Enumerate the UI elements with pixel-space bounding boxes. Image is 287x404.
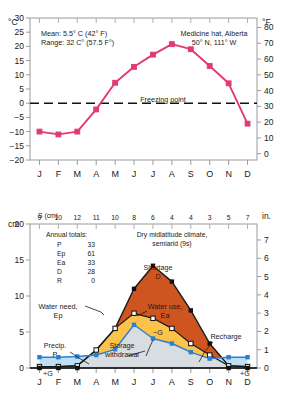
annual-total-value: 28 (87, 268, 95, 275)
temp-y2-tick-label: 10 (264, 133, 274, 143)
temp-y2-tick-label: 70 (264, 38, 274, 48)
storage-row-value: 10 (111, 214, 119, 221)
water-month-label: J (151, 377, 156, 387)
annual-total-value: 33 (87, 241, 95, 248)
water-month-label: F (56, 377, 62, 387)
recharge-marker (226, 366, 230, 370)
temperature-data-point (94, 107, 99, 112)
temperature-data-point (113, 80, 118, 85)
temp-y2-tick-label: 20 (264, 117, 274, 127)
water-need-point (132, 287, 136, 291)
temp-y-tick-label: 20 (15, 41, 25, 51)
water-balance-chart-svg: 0510152001234567JFMAMJJASOND cm in. S (c… (0, 196, 287, 404)
temp-y2-tick-label: 0 (264, 149, 269, 159)
water-use-point (113, 326, 117, 330)
precipitation-point (208, 356, 212, 360)
water-need-point (189, 308, 193, 312)
annual-totals-list: P33Ep61Ea33D28R0 (57, 241, 95, 284)
mean-temperature-label: Mean: 5.5° C (42° F) (41, 29, 107, 38)
precipitation-point (132, 323, 136, 327)
plus-g-label-december: +G (240, 369, 250, 378)
precipitation-point (37, 355, 41, 359)
celsius-unit-label: °C (8, 17, 18, 27)
fahrenheit-unit-label: °F (262, 17, 271, 27)
annual-total-key: D (57, 268, 62, 275)
water-use-point (132, 311, 136, 315)
water-month-label: O (206, 377, 213, 387)
temp-y-tick-label: 5 (19, 84, 24, 94)
water-y-tick-label: 15 (15, 255, 25, 265)
temperature-data-point (207, 64, 212, 69)
storage-row-value: 12 (74, 214, 82, 221)
temp-y-tick-label: −5 (14, 112, 24, 122)
temp-month-label: A (93, 169, 99, 179)
water-month-label: A (169, 377, 175, 387)
minus-g-label: −G (153, 328, 163, 337)
precipitation-point (226, 355, 230, 359)
water-y2-tick-label: 4 (264, 290, 269, 300)
cm-unit-label: cm (8, 219, 19, 229)
water-need-label-line1: Water need, (39, 302, 78, 311)
water-need-point (170, 279, 174, 283)
storage-row-value: 7 (246, 214, 250, 221)
temp-month-label: M (74, 169, 82, 179)
temp-y2-tick-label: 30 (264, 101, 274, 111)
temp-y2-tick-label: 50 (264, 70, 274, 80)
storage-row-value: 8 (132, 214, 136, 221)
temperature-data-point (56, 132, 61, 137)
inches-unit-label: in. (262, 211, 271, 221)
temp-y2-tick-label: 60 (264, 54, 274, 64)
temp-month-label: J (37, 169, 42, 179)
annual-total-key: P (57, 241, 62, 248)
annual-total-key: Ea (57, 259, 66, 266)
climate-type-line1: Dry midlatitude climate, (137, 231, 208, 239)
storage-row-value: 3 (208, 214, 212, 221)
temp-month-label: D (244, 169, 251, 179)
temperature-data-point (132, 64, 137, 69)
annual-totals-title: Annual totals: (46, 231, 87, 238)
storage-withdrawal-line1: Storage (109, 341, 134, 350)
water-month-label: D (244, 377, 251, 387)
water-month-label: S (188, 377, 194, 387)
temp-y-tick-label: −20 (10, 155, 25, 165)
precip-label-line2: P (53, 350, 58, 359)
temperature-range-label: Range: 32 C° (57.5 F°) (41, 38, 114, 47)
temp-month-label: J (151, 169, 156, 179)
water-use-point (151, 316, 155, 320)
temp-month-label: J (132, 169, 137, 179)
storage-row-values: 9101211108644357 (38, 214, 250, 221)
water-month-label: J (132, 377, 137, 387)
temp-y-tick-label: 25 (15, 27, 25, 37)
annual-total-value: 61 (87, 250, 95, 257)
temperature-line (40, 44, 248, 134)
temperature-data-point (245, 121, 250, 126)
water-use-label-line2: Ea (161, 311, 170, 320)
water-y2-tick-label: 2 (264, 326, 269, 336)
annual-total-key: R (57, 277, 62, 284)
storage-row-value: 4 (170, 214, 174, 221)
recharge-label: Recharge (210, 332, 241, 341)
water-use-point (189, 341, 193, 345)
recharge-marker (37, 366, 41, 370)
shortage-label-line1: Shortage (143, 263, 172, 272)
precipitation-point (170, 341, 174, 345)
water-y2-tick-label: 0 (264, 363, 269, 373)
temperature-chart-svg: −20−15−10−505101520253001020304050607080… (0, 0, 287, 196)
water-month-label: J (37, 377, 42, 387)
temp-month-label: F (56, 169, 62, 179)
storage-row-value: 11 (93, 214, 100, 221)
annual-total-value: 33 (87, 259, 95, 266)
storage-row-value: 10 (55, 214, 63, 221)
temp-y-tick-label: 10 (15, 70, 25, 80)
water-use-point (170, 326, 174, 330)
storage-row-value: 9 (38, 214, 42, 221)
plus-g-label-winter: +G (43, 369, 53, 378)
water-y2-tick-label: 6 (264, 253, 269, 263)
temp-month-label: O (206, 169, 213, 179)
shortage-label-line2: D (155, 272, 160, 281)
temperature-data-point (226, 81, 231, 86)
water-y2-tick-label: 5 (264, 272, 269, 282)
temp-y-tick-label: 0 (19, 98, 24, 108)
water-y-tick-label: 0 (19, 363, 24, 373)
water-y2-tick-label: 7 (264, 235, 269, 245)
